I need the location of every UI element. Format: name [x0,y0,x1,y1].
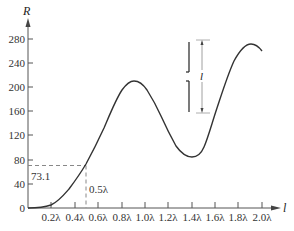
svg-text:240: 240 [9,57,26,69]
svg-text:1.6λ: 1.6λ [205,211,225,223]
x-tick-labels: 0.2λ 0.4λ 0.6λ 0.8λ 1.0λ 1.2λ 1.4λ 1.6λ … [41,211,272,223]
y-tick-labels: 0 40 80 120 160 200 240 280 [9,33,26,214]
x-axis-arrow-icon [271,206,281,211]
dimension-arrow-down-icon [201,108,204,113]
guide-length-label: 0.5λ [89,183,109,195]
svg-text:0.8λ: 0.8λ [112,211,132,223]
svg-text:80: 80 [14,154,26,166]
svg-text:1.2λ: 1.2λ [158,211,178,223]
dipole-antenna-diagram: l [186,40,210,113]
y-axis-title: R [22,4,31,18]
svg-text:1.0λ: 1.0λ [135,211,155,223]
svg-text:2.0λ: 2.0λ [252,211,272,223]
x-ticks [51,202,262,208]
resistance-curve [28,44,262,208]
chart-canvas: R l 0 40 80 120 160 200 240 280 0.2λ [0,0,294,231]
dimension-arrow-up-icon [201,40,204,45]
svg-text:280: 280 [9,33,26,45]
svg-text:160: 160 [9,105,26,117]
svg-text:40: 40 [14,178,26,190]
svg-text:1.4λ: 1.4λ [182,211,202,223]
svg-text:0.4λ: 0.4λ [65,211,85,223]
svg-text:1.8λ: 1.8λ [228,211,248,223]
guide-value-label: 73.1 [31,170,50,182]
x-axis-title: l [283,201,287,215]
svg-text:0.6λ: 0.6λ [88,211,108,223]
svg-text:0: 0 [20,202,26,214]
svg-text:120: 120 [9,129,26,141]
dimension-label: l [200,70,203,82]
y-axis-arrow-icon [26,18,31,27]
y-ticks [28,39,33,184]
svg-text:0.2λ: 0.2λ [41,211,61,223]
svg-text:200: 200 [9,81,26,93]
